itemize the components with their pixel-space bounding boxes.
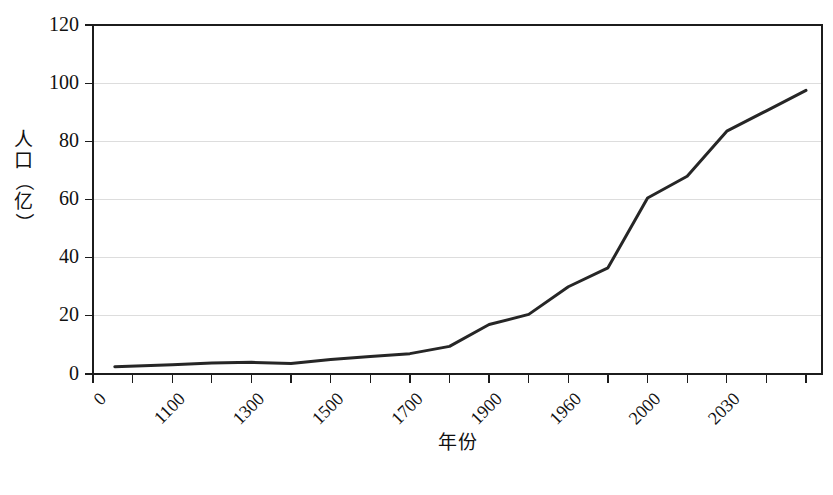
- y-tick-label-2: 40: [59, 245, 79, 267]
- gridlines: [93, 83, 822, 316]
- x-tick-label-1: 1100: [150, 389, 189, 428]
- x-tick-label-5: 1900: [466, 389, 506, 429]
- x-tick-label-3: 1500: [308, 389, 348, 429]
- x-axis-title: 年份: [438, 432, 478, 453]
- chart-canvas: 020406080100120 011001300150017001900196…: [0, 0, 833, 495]
- x-axis-ticks: [93, 374, 806, 383]
- x-tick-label-0: 0: [89, 389, 110, 410]
- y-axis-ticks: [85, 25, 93, 374]
- series-line-0: [115, 90, 806, 366]
- y-axis-tick-labels: 020406080100120: [49, 13, 79, 384]
- data-series-line: [115, 90, 806, 366]
- x-tick-label-7: 2000: [625, 389, 665, 429]
- y-tick-label-4: 80: [59, 129, 79, 151]
- y-tick-label-1: 20: [59, 303, 79, 325]
- population-line-chart: 人 口 （ 亿 ） 020406080100120 01100130015001…: [0, 0, 833, 495]
- x-tick-label-4: 1700: [387, 389, 427, 429]
- y-tick-label-5: 100: [49, 71, 79, 93]
- y-tick-label-0: 0: [69, 362, 79, 384]
- x-tick-label-8: 2030: [704, 389, 744, 429]
- x-tick-label-2: 1300: [229, 389, 269, 429]
- chart-page: 人 口 （ 亿 ） 020406080100120 01100130015001…: [0, 0, 833, 495]
- x-tick-label-6: 1960: [546, 389, 586, 429]
- y-tick-label-6: 120: [49, 13, 79, 35]
- x-axis-tick-labels: 011001300150017001900196020002030: [89, 389, 743, 429]
- y-tick-label-3: 60: [59, 187, 79, 209]
